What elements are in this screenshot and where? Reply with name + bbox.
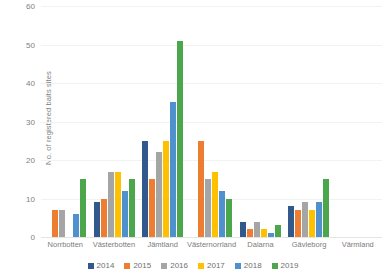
bar-2016-jämtland[interactable] [156,152,162,237]
legend-swatch-icon [124,263,130,269]
bar-2014-jämtland[interactable] [142,141,148,237]
legend-item-2016[interactable]: 2016 [161,261,188,270]
bar-group [236,6,285,237]
legend-swatch-icon [88,263,94,269]
bar-2019-dalarna[interactable] [275,225,281,237]
legend-label: 2014 [97,261,115,270]
bar-2018-västerbotten[interactable] [122,191,128,237]
x-axis-label: Dalarna [236,240,285,249]
x-axis-label: Norrbotten [41,240,90,249]
legend-swatch-icon [198,263,204,269]
bar-2018-norrbotten[interactable] [73,214,79,237]
bar-2018-jämtland[interactable] [170,102,176,237]
y-axis-tick-label: 0 [31,233,35,242]
legend-item-2017[interactable]: 2017 [198,261,225,270]
x-axis-label: Västerbotten [90,240,139,249]
bar-2019-norrbotten[interactable] [80,179,86,237]
legend-item-2019[interactable]: 2019 [272,261,299,270]
bar-2017-jämtland[interactable] [163,141,169,237]
bar-2015-gävleborg[interactable] [295,210,301,237]
bar-groups [41,6,382,237]
bar-group [138,6,187,237]
bar-2017-västerbotten[interactable] [115,172,121,237]
y-axis-tick-label: 30 [26,117,35,126]
bar-2016-västernorrland[interactable] [205,179,211,237]
bar-2018-västernorrland[interactable] [219,191,225,237]
bar-group [333,6,382,237]
legend-label: 2016 [170,261,188,270]
bar-group [285,6,334,237]
bar-2019-västerbotten[interactable] [129,179,135,237]
bar-2016-västerbotten[interactable] [108,172,114,237]
plot-area: 0102030405060 [41,6,382,237]
legend-label: 2015 [133,261,151,270]
bar-2018-gävleborg[interactable] [316,202,322,237]
bar-2014-dalarna[interactable] [240,222,246,237]
bar-2014-gävleborg[interactable] [288,206,294,237]
legend-swatch-icon [235,263,241,269]
legend: 201420152016201720182019 [0,261,386,270]
x-axis-labels: NorrbottenVästerbottenJämtlandVästernorr… [41,240,382,249]
legend-label: 2019 [281,261,299,270]
bar-2016-norrbotten[interactable] [59,210,65,237]
legend-swatch-icon [161,263,167,269]
y-axis-tick-label: 60 [26,2,35,11]
bar-2017-dalarna[interactable] [261,229,267,237]
x-axis-label: Gävleborg [285,240,334,249]
legend-item-2014[interactable]: 2014 [88,261,115,270]
bar-chart: No. of registered baits sites 0102030405… [0,0,386,280]
x-axis-label: Jämtland [138,240,187,249]
gridline [41,237,382,238]
bar-2019-gävleborg[interactable] [323,179,329,237]
legend-label: 2017 [207,261,225,270]
bar-2019-västernorrland[interactable] [226,199,232,238]
x-axis-label: Västernorrland [187,240,236,249]
legend-item-2018[interactable]: 2018 [235,261,262,270]
bar-group [187,6,236,237]
bar-group [90,6,139,237]
y-axis-tick-label: 50 [26,40,35,49]
legend-label: 2018 [244,261,262,270]
bar-2016-gävleborg[interactable] [302,202,308,237]
bar-2015-västernorrland[interactable] [198,141,204,237]
legend-swatch-icon [272,263,278,269]
bar-2017-västernorrland[interactable] [212,172,218,237]
bar-2017-gävleborg[interactable] [309,210,315,237]
bar-2015-dalarna[interactable] [247,229,253,237]
bar-2018-dalarna[interactable] [268,233,274,237]
y-axis-tick-label: 40 [26,79,35,88]
bar-2014-västerbotten[interactable] [94,202,100,237]
bar-2015-norrbotten[interactable] [52,210,58,237]
bar-2015-jämtland[interactable] [149,179,155,237]
bar-2015-västerbotten[interactable] [101,199,107,238]
y-axis-tick-label: 20 [26,156,35,165]
bar-2019-jämtland[interactable] [177,41,183,237]
bar-group [41,6,90,237]
x-axis-label: Värmland [333,240,382,249]
legend-item-2015[interactable]: 2015 [124,261,151,270]
bar-2016-dalarna[interactable] [254,222,260,237]
y-axis-tick-label: 10 [26,194,35,203]
